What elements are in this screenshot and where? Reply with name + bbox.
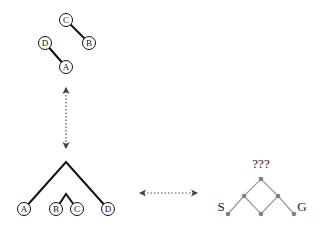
top-node-a: A <box>60 61 73 74</box>
top-tree: C B D A <box>39 14 96 74</box>
diagram-canvas: C B D A A B C <box>0 0 323 235</box>
start-label: S <box>217 199 224 214</box>
lattice-dot-top <box>259 177 264 182</box>
lattice-dot-s <box>226 212 231 217</box>
node-label: B <box>86 38 92 48</box>
bottom-leaf-b: B <box>50 203 63 216</box>
node-label: D <box>42 38 49 48</box>
bottom-leaf-a: A <box>18 203 31 216</box>
lattice-dot-g <box>292 212 297 217</box>
top-node-c: C <box>60 14 73 27</box>
bottom-tree: A B C D <box>18 162 115 216</box>
goal-label: G <box>297 199 306 214</box>
node-label: C <box>63 15 69 25</box>
top-node-d: D <box>39 37 52 50</box>
bottom-leaf-c: C <box>71 203 84 216</box>
lattice-outer <box>228 179 294 214</box>
bottom-leaf-d: D <box>102 203 115 216</box>
node-label: D <box>105 204 112 214</box>
node-label: C <box>74 204 80 214</box>
lattice-dot-bottom <box>259 212 264 217</box>
outer-branch <box>24 162 108 209</box>
lattice: ??? S G <box>217 156 306 216</box>
node-label: A <box>63 62 70 72</box>
top-node-b: B <box>83 37 96 50</box>
node-label: B <box>53 204 59 214</box>
node-label: A <box>21 204 28 214</box>
lattice-dot-right <box>276 194 281 199</box>
lattice-dot-left <box>242 194 247 199</box>
question-label: ??? <box>252 156 270 171</box>
lattice-inner <box>244 196 278 214</box>
